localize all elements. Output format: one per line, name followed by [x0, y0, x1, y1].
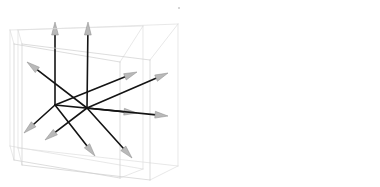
box-edge-front-top — [22, 44, 150, 60]
vector-up-shaft — [87, 31, 88, 108]
vector-lower-left-shaft — [52, 108, 87, 134]
box-edge-back-bottom — [18, 148, 178, 166]
vector-up-head-icon — [84, 22, 91, 35]
vector-right — [87, 108, 168, 118]
vector-upper-right — [87, 73, 168, 108]
box-edge-connector-bottom-right — [150, 166, 178, 180]
box-edge-connector-top-left — [18, 30, 22, 44]
vector-right-shaft — [87, 108, 159, 115]
vector-right-head-icon — [155, 111, 168, 118]
vector-lower-right — [87, 108, 132, 158]
vector-upper-right-shaft — [87, 77, 159, 108]
image-artifact-speck — [178, 7, 180, 9]
vector-lower-right-shaft — [87, 108, 126, 151]
vector-upper-left — [27, 62, 87, 108]
vector-up — [84, 22, 91, 108]
vector-upper-left-shaft — [34, 68, 87, 108]
vector-upper-right-head-icon — [155, 73, 168, 81]
box-edge-back-top — [18, 24, 178, 30]
vector-diagram-figure — [0, 0, 380, 187]
box-edge-connector-bottom-left — [18, 148, 22, 165]
box-edge-connector-top-right — [150, 24, 178, 60]
vector-lower-left — [45, 108, 87, 140]
box-edge-front-bottom — [22, 165, 150, 180]
right-panel — [0, 0, 190, 187]
